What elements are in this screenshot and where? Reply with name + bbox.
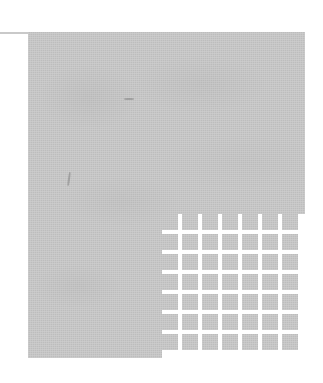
grid-cell-r7c5 xyxy=(242,334,258,350)
grid-cell-r5c4 xyxy=(222,294,238,310)
grid-cell-r6c7 xyxy=(282,314,298,330)
grid-cell-r5c1 xyxy=(162,294,178,310)
grid-cell-r2c5 xyxy=(242,234,258,250)
grid-cell-r1c2 xyxy=(182,214,198,230)
grid-cell-r5c3 xyxy=(202,294,218,310)
speck-mark-3 xyxy=(124,98,134,100)
grid-cell-r3c4 xyxy=(222,254,238,270)
grid-cell-r6c1 xyxy=(162,314,178,330)
grid-cell-r5c7 xyxy=(282,294,298,310)
grid-cell-r4c2 xyxy=(182,274,198,290)
grid-cell-r7c1 xyxy=(162,334,178,350)
grid-cell-r7c7 xyxy=(282,334,298,350)
grid-cell-r2c6 xyxy=(262,234,278,250)
horizontal-rule xyxy=(0,32,29,34)
grid-cell-r7c3 xyxy=(202,334,218,350)
speck-mark-1 xyxy=(67,172,71,186)
grid-cell-r2c4 xyxy=(222,234,238,250)
grid-cell-r4c4 xyxy=(222,274,238,290)
grid-cell-r4c5 xyxy=(242,274,258,290)
grid-cell-r7c2 xyxy=(182,334,198,350)
grid-cell-r2c3 xyxy=(202,234,218,250)
grid-cell-r6c6 xyxy=(262,314,278,330)
cell-grid xyxy=(162,214,305,358)
grid-cell-r1c3 xyxy=(202,214,218,230)
grid-cell-r3c3 xyxy=(202,254,218,270)
grid-cell-r4c3 xyxy=(202,274,218,290)
grid-cell-r5c2 xyxy=(182,294,198,310)
grid-cell-r3c2 xyxy=(182,254,198,270)
grid-cell-r6c3 xyxy=(202,314,218,330)
figure-canvas xyxy=(0,0,323,383)
grid-cell-r3c1 xyxy=(162,254,178,270)
grid-cell-r1c1 xyxy=(162,214,178,230)
grid-cell-r2c1 xyxy=(162,234,178,250)
grid-cell-r6c4 xyxy=(222,314,238,330)
grid-cell-r3c5 xyxy=(242,254,258,270)
grid-cell-r2c7 xyxy=(282,234,298,250)
grid-cell-r4c7 xyxy=(282,274,298,290)
grid-cell-r1c5 xyxy=(242,214,258,230)
grid-cell-r1c7 xyxy=(282,214,298,230)
grid-cell-r5c6 xyxy=(262,294,278,310)
grid-cell-r2c2 xyxy=(182,234,198,250)
grid-cell-r4c6 xyxy=(262,274,278,290)
grid-cell-r1c6 xyxy=(262,214,278,230)
grid-cell-r6c2 xyxy=(182,314,198,330)
grid-cell-r6c5 xyxy=(242,314,258,330)
grid-cell-r3c7 xyxy=(282,254,298,270)
grid-cell-r5c5 xyxy=(242,294,258,310)
grid-cell-r7c4 xyxy=(222,334,238,350)
grid-cell-r4c1 xyxy=(162,274,178,290)
grid-cell-r3c6 xyxy=(262,254,278,270)
grid-cell-r1c4 xyxy=(222,214,238,230)
grid-cell-r7c6 xyxy=(262,334,278,350)
